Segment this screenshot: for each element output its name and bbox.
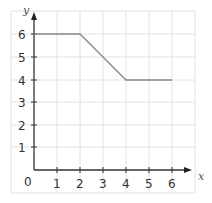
- x-tick-label-1: 1: [53, 177, 61, 191]
- origin-label: 0: [24, 175, 32, 189]
- y-tick-label-3: 3: [18, 96, 26, 110]
- x-tick-label-2: 2: [76, 177, 84, 191]
- line-chart: 6 5 4 3 2 1 0 1 2 3 4 5 6 y x: [0, 0, 212, 203]
- y-tick-label-4: 4: [18, 74, 26, 88]
- x-tick-label-5: 5: [145, 177, 153, 191]
- y-axis-arrow-icon: [31, 12, 37, 20]
- grid: [11, 11, 195, 193]
- x-tick-label-3: 3: [99, 177, 107, 191]
- x-tick-label-6: 6: [168, 177, 176, 191]
- x-tick-label-4: 4: [122, 177, 130, 191]
- y-tick-label-2: 2: [18, 119, 26, 133]
- y-tick-label-6: 6: [18, 28, 26, 42]
- y-axis-label: y: [22, 4, 30, 17]
- y-tick-label-1: 1: [18, 141, 26, 155]
- x-axis-label: x: [198, 170, 205, 183]
- y-tick-label-5: 5: [18, 51, 26, 65]
- x-axis-arrow-icon: [184, 167, 192, 173]
